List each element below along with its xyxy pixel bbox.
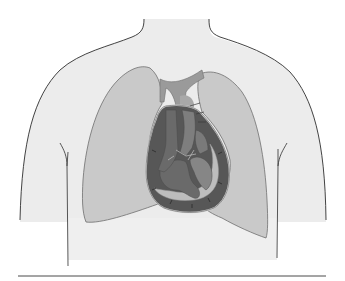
figure-svg [0, 0, 345, 281]
anatomy-figure [0, 0, 345, 281]
